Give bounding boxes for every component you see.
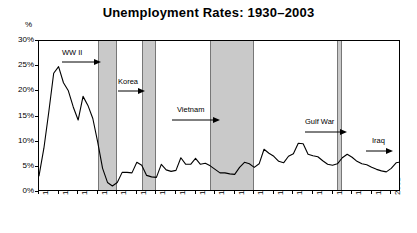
y-tick-label: 20% xyxy=(0,85,34,94)
x-tick-mark xyxy=(312,191,313,194)
annotation-arrow-korea xyxy=(118,87,146,95)
x-tick-mark xyxy=(332,191,333,194)
y-tick-label: 5% xyxy=(0,161,34,170)
x-tick-mark xyxy=(136,191,137,194)
x-tick-mark xyxy=(292,191,293,194)
chart-container: Unemployment Rates: 1930–2003 % 0%5%10%1… xyxy=(0,0,417,233)
x-tick-mark xyxy=(214,191,215,194)
x-tick-mark xyxy=(38,191,39,194)
x-tick-mark xyxy=(253,191,254,194)
y-axis-unit-label: % xyxy=(25,20,32,29)
y-tick-label: 25% xyxy=(0,60,34,69)
annotation-arrow-ww2 xyxy=(62,58,102,66)
annotation-label-iraq: Iraq xyxy=(372,136,385,145)
y-tick-label: 10% xyxy=(0,136,34,145)
annotation-label-ww2: WW II xyxy=(62,48,82,57)
x-tick-mark xyxy=(97,191,98,194)
annotation-label-gulf-war: Gulf War xyxy=(305,117,334,126)
annotation-arrow-vietnam xyxy=(172,116,221,124)
x-tick-mark xyxy=(195,191,196,194)
x-tick-mark xyxy=(273,191,274,194)
y-tick-label: 15% xyxy=(0,111,34,120)
chart-title: Unemployment Rates: 1930–2003 xyxy=(0,5,417,20)
x-tick-mark xyxy=(371,191,372,194)
annotation-label-vietnam: Vietnam xyxy=(177,105,204,114)
annotation-arrow-gulf-war xyxy=(305,128,348,136)
x-tick-mark xyxy=(58,191,59,194)
annotation-label-korea: Korea xyxy=(118,77,138,86)
x-tick-mark xyxy=(77,191,78,194)
y-tick-label: 30% xyxy=(0,35,34,44)
x-tick-mark xyxy=(351,191,352,194)
y-tick-label: 0% xyxy=(0,186,34,195)
annotation-arrow-iraq xyxy=(366,147,394,155)
x-tick-mark xyxy=(390,191,391,194)
x-tick-mark xyxy=(234,191,235,194)
x-tick-mark xyxy=(155,191,156,194)
x-tick-mark xyxy=(116,191,117,194)
x-tick-mark xyxy=(175,191,176,194)
